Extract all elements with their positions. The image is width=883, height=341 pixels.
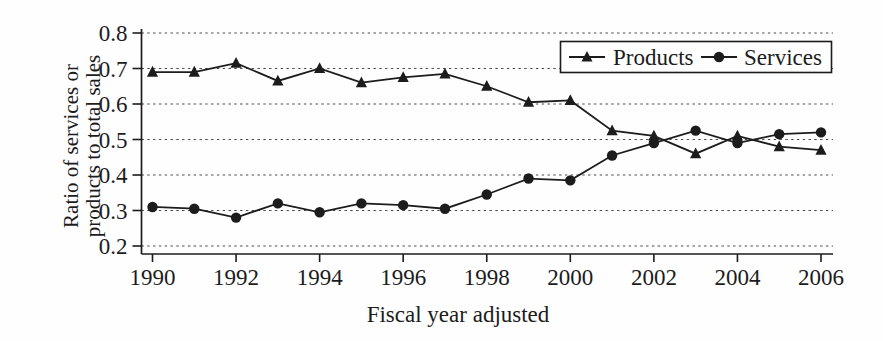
data-point-circle — [607, 150, 617, 160]
x-tick-label: 1996 — [380, 265, 426, 290]
data-point-circle — [314, 207, 324, 217]
x-axis-label: Fiscal year adjusted — [367, 302, 550, 327]
x-tick-label: 1990 — [130, 265, 176, 290]
x-tick-label: 2002 — [631, 265, 677, 290]
data-point-circle — [774, 129, 784, 139]
x-tick-label: 1994 — [297, 265, 344, 290]
figure: 0.20.30.40.50.60.70.81990199219941996199… — [0, 0, 883, 341]
data-point-circle — [690, 125, 700, 135]
series-line-products — [153, 63, 822, 154]
x-tick-label: 1998 — [464, 265, 510, 290]
data-point-triangle — [606, 124, 617, 135]
data-point-circle — [816, 127, 826, 137]
x-tick-label: 1992 — [213, 265, 259, 290]
legend-products-label: Products — [613, 45, 694, 70]
legend-circle-marker-icon — [714, 52, 724, 62]
data-point-circle — [147, 202, 157, 212]
y-axis-label-line2: products to total sales — [81, 55, 105, 238]
data-point-circle — [732, 138, 742, 148]
line-chart: 0.20.30.40.50.60.70.81990199219941996199… — [0, 0, 883, 341]
legend: Products Services — [561, 42, 832, 73]
data-point-circle — [273, 198, 283, 208]
x-tick-label: 2000 — [547, 265, 593, 290]
data-point-triangle — [565, 94, 576, 105]
data-point-circle — [565, 175, 575, 185]
data-point-triangle — [230, 57, 241, 68]
data-point-triangle — [439, 68, 450, 79]
data-point-circle — [231, 212, 241, 222]
data-point-circle — [649, 138, 659, 148]
legend-services-label: Services — [744, 45, 822, 70]
x-tick-label: 2006 — [798, 265, 844, 290]
data-point-circle — [189, 204, 199, 214]
data-point-circle — [398, 200, 408, 210]
data-point-circle — [523, 173, 533, 183]
data-point-triangle — [314, 62, 325, 73]
y-tick-label: 0.8 — [99, 21, 128, 46]
data-point-circle — [440, 204, 450, 214]
x-tick-label: 2004 — [714, 265, 761, 290]
data-point-circle — [482, 189, 492, 199]
data-point-circle — [356, 198, 366, 208]
y-axis-label-line1: Ratio of services or — [59, 64, 83, 228]
